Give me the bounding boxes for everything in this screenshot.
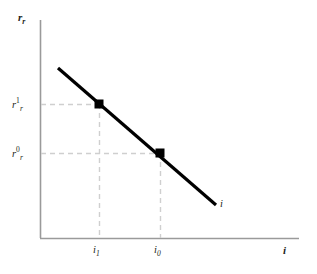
x-tick-label-i0-sub: 0	[157, 249, 161, 258]
y-tick-label-r1-sub: r	[20, 104, 23, 113]
y-tick-label-r0: r0r	[12, 146, 23, 161]
curve-end-label: i	[220, 199, 223, 210]
y-axis-title: rr	[18, 12, 25, 26]
y-tick-label-r0-sub: r	[20, 153, 23, 162]
y-axis-title-sub: r	[22, 17, 25, 26]
data-point-marker-0	[156, 149, 165, 158]
x-tick-label-i0: i0	[154, 245, 161, 258]
y-tick-label-r1: r1r	[12, 97, 23, 112]
figure-container: rr i r1r r0r i1 i0 i	[0, 0, 317, 274]
x-tick-label-i1-sub: 1	[96, 249, 100, 258]
curve-line-i	[58, 68, 216, 205]
x-axis-title: i	[283, 245, 286, 256]
plot-svg	[0, 0, 317, 274]
x-tick-label-i1: i1	[93, 245, 100, 258]
data-point-marker-1	[95, 100, 104, 109]
